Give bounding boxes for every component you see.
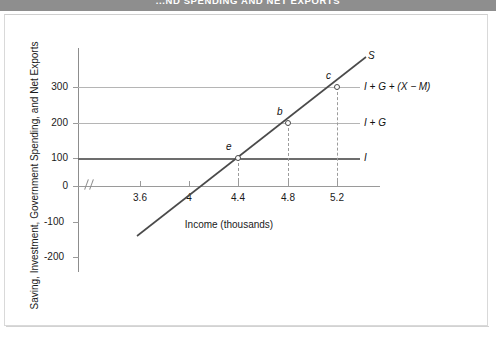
data-point-c — [334, 84, 340, 90]
y-axis-line — [78, 48, 79, 272]
figure-page: ...ND SPENDING AND NET EXPORTS Saving, I… — [0, 0, 496, 344]
dropline-point-e — [238, 158, 239, 186]
x-tick-label-4: 4 — [174, 192, 204, 203]
x-axis-line — [78, 186, 380, 187]
data-point-label-b: b — [277, 106, 283, 117]
x-tick-mark-4 — [189, 181, 190, 186]
axis-break-icon — [83, 179, 99, 192]
y-tick-mark-neg200 — [73, 257, 79, 258]
chart-plot-area: Saving, Investment, Government Spending,… — [0, 0, 496, 344]
dropline-point-c — [337, 87, 338, 186]
data-point-label-e: e — [226, 141, 232, 152]
y-tick-label-300: 300 — [34, 81, 68, 92]
data-point-label-c: c — [326, 70, 331, 81]
y-tick-label-neg200: -200 — [30, 251, 64, 262]
series-line-i-g-xm — [78, 87, 360, 88]
series-label-i-g-xm: I + G + (X − M) — [364, 81, 430, 92]
y-tick-label-100: 100 — [34, 152, 68, 163]
saving-function-line — [0, 0, 496, 344]
y-tick-label-200: 200 — [34, 117, 68, 128]
y-tick-label-0: 0 — [34, 180, 68, 191]
series-line-i — [78, 158, 360, 160]
x-tick-label-3-6: 3.6 — [125, 192, 155, 203]
series-label-s: S — [368, 50, 375, 61]
x-tick-mark-3-6 — [140, 181, 141, 186]
series-label-i-g: I + G — [364, 117, 386, 128]
x-axis-label: Income (thousands) — [78, 219, 380, 230]
series-label-i: I — [364, 152, 367, 163]
data-point-e — [235, 155, 241, 161]
y-tick-mark-0 — [73, 186, 79, 187]
series-line-i-g — [78, 123, 360, 124]
y-tick-label-neg100: -100 — [30, 216, 64, 227]
x-tick-label-4-8: 4.8 — [273, 192, 303, 203]
y-axis-label: Saving, Investment, Government Spending,… — [29, 36, 40, 316]
x-tick-label-5-2: 5.2 — [322, 192, 352, 203]
dropline-point-b — [288, 123, 289, 186]
x-tick-label-4-4: 4.4 — [223, 192, 253, 203]
data-point-b — [285, 120, 291, 126]
